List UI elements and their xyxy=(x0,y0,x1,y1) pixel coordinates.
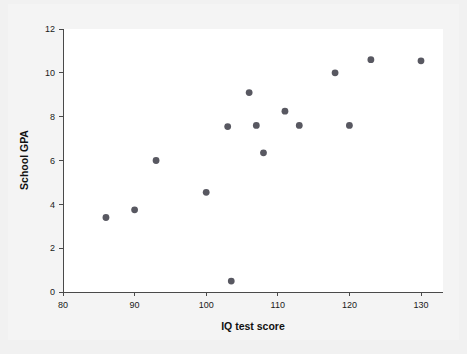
data-point xyxy=(153,157,160,164)
data-point xyxy=(203,189,210,196)
data-point xyxy=(296,122,303,129)
x-axis-title: IQ test score xyxy=(221,320,285,332)
data-point xyxy=(346,122,353,129)
data-points-layer xyxy=(103,56,425,284)
y-axis-ticks: 024681012 xyxy=(45,24,63,297)
data-point xyxy=(246,89,253,96)
figure-panel: 024681012 8090100110120130 IQ test score… xyxy=(0,0,467,354)
data-point xyxy=(260,149,267,156)
x-tick-label: 80 xyxy=(58,300,68,310)
y-tick-label: 8 xyxy=(50,112,55,122)
y-tick-label: 12 xyxy=(45,24,55,34)
y-tick-label: 10 xyxy=(45,68,55,78)
data-point xyxy=(367,56,374,63)
data-point xyxy=(418,57,425,64)
y-tick-label: 0 xyxy=(50,287,55,297)
data-point xyxy=(224,123,231,130)
scatter-chart: 024681012 8090100110120130 IQ test score… xyxy=(0,0,467,354)
data-point xyxy=(282,108,289,115)
data-point xyxy=(228,278,235,285)
y-tick-label: 4 xyxy=(50,200,55,210)
y-tick-label: 2 xyxy=(50,243,55,253)
x-tick-label: 100 xyxy=(199,300,214,310)
data-point xyxy=(332,69,339,76)
chart-svg: 024681012 8090100110120130 IQ test score… xyxy=(0,0,467,354)
x-tick-label: 130 xyxy=(413,300,428,310)
x-tick-label: 120 xyxy=(342,300,357,310)
y-tick-label: 6 xyxy=(50,156,55,166)
x-axis-ticks: 8090100110120130 xyxy=(58,292,429,310)
data-point xyxy=(253,122,260,129)
x-tick-label: 90 xyxy=(130,300,140,310)
data-point xyxy=(103,214,110,221)
y-axis-title: School GPA xyxy=(18,130,30,190)
data-point xyxy=(131,206,138,213)
x-tick-label: 110 xyxy=(271,300,285,310)
